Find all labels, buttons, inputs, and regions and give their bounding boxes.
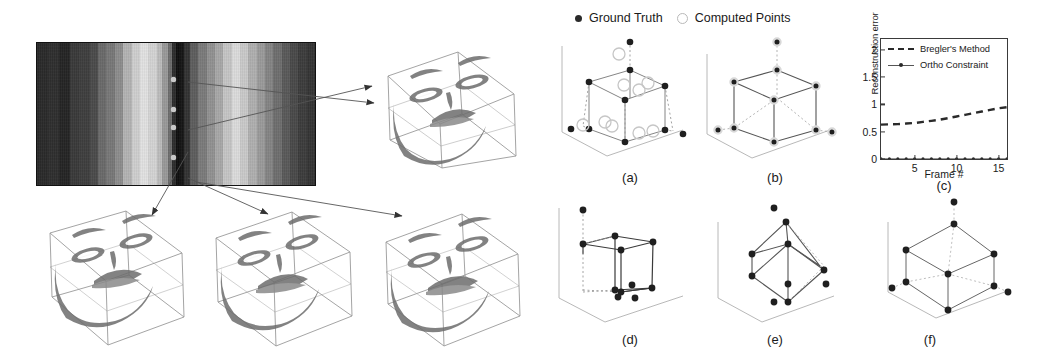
chart-series-marker	[888, 157, 891, 159]
cube-panel-e-caption: (e)	[700, 332, 850, 347]
chart-y-tick-label: 0	[871, 153, 877, 165]
chart-series-marker	[921, 157, 924, 159]
chart-y-tick-label: 2	[871, 44, 877, 56]
dashed-line-icon	[888, 48, 914, 50]
left-panel-structured-light	[0, 0, 545, 363]
chart-series-marker	[938, 157, 941, 159]
chart-x-tick-mark	[914, 155, 915, 159]
legend-computed-points-label: Computed Points	[695, 11, 791, 25]
cube-panel-b-caption: (b)	[700, 170, 850, 185]
chart-series-layer	[881, 39, 1007, 159]
chart-y-tick-mark	[881, 131, 885, 132]
face-box-top-right	[374, 32, 524, 172]
chart-caption: (c)	[880, 178, 1008, 193]
chart-series-marker	[930, 157, 933, 159]
cube-panel-d-caption: (d)	[555, 332, 705, 347]
chart-y-tick-mark	[881, 49, 885, 50]
legend-computed-points: Computed Points	[677, 11, 791, 25]
face-box-bottom-right	[366, 200, 526, 352]
right-panel-cube-experiments: Ground Truth Computed Points	[545, 0, 1041, 363]
face-box-bottom-mid	[200, 202, 358, 352]
cube-panel-f-caption: (f)	[850, 332, 1010, 347]
chart-series-marker	[947, 157, 950, 159]
chart-y-tick-label: 0.5	[862, 126, 877, 138]
chart-legend-bregler: Bregler's Method	[888, 44, 990, 54]
stripe-noise-overlay	[37, 43, 315, 185]
open-circle-icon	[677, 13, 688, 24]
cube-panel-a: (a)	[555, 30, 705, 195]
legend-ground-truth: Ground Truth	[575, 11, 663, 25]
chart-legend-bregler-label: Bregler's Method	[920, 44, 990, 54]
chart-series-marker	[963, 157, 966, 159]
chart-series-marker	[896, 157, 899, 159]
chart-x-tick-mark	[956, 155, 957, 159]
points-legend: Ground Truth Computed Points	[575, 8, 845, 28]
chart-series-marker	[905, 157, 908, 159]
filled-dot-icon	[575, 15, 582, 22]
chart-y-tick-label: 1.5	[862, 71, 877, 83]
cube-panel-d: (d)	[555, 200, 705, 363]
reconstruction-error-chart: Reconstruction error 00.511.5251015 Breg…	[855, 22, 1041, 192]
chart-x-tick-mark	[998, 155, 999, 159]
chart-plot-area: 00.511.5251015	[880, 38, 1008, 160]
chart-y-tick-mark	[881, 104, 885, 105]
chart-series-line	[881, 107, 1007, 124]
solid-line-marker-icon	[888, 65, 914, 66]
chart-series-marker	[1005, 157, 1007, 159]
chart-legend-ortho: Ortho Constraint	[888, 60, 988, 70]
chart-series-marker	[980, 157, 983, 159]
chart-y-tick-label: 1	[871, 98, 877, 110]
striped-grayscale-input-image	[36, 42, 316, 186]
chart-y-tick-mark	[881, 77, 885, 78]
cube-panel-a-caption: (a)	[555, 170, 705, 185]
chart-y-tick-mark	[881, 158, 885, 159]
chart-series-marker	[972, 157, 975, 159]
cube-panel-f: (f)	[850, 200, 1010, 363]
cube-panel-b: (b)	[700, 30, 850, 195]
chart-legend-ortho-label: Ortho Constraint	[920, 60, 988, 70]
legend-ground-truth-label: Ground Truth	[589, 11, 663, 25]
cube-panel-e: (e)	[700, 200, 850, 363]
chart-series-marker	[989, 157, 992, 159]
face-box-bottom-left	[32, 205, 190, 353]
